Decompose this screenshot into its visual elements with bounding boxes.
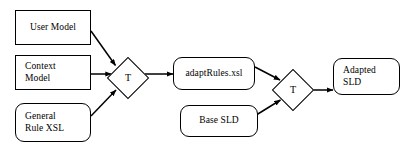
- node-general-rule-xsl-label: General Rule XSL: [25, 111, 64, 134]
- node-general-rule-xsl[interactable]: General Rule XSL: [15, 103, 91, 142]
- node-transform-2-label: T: [276, 85, 310, 95]
- node-adapted-sld-label: Adapted SLD: [343, 65, 376, 88]
- node-transform-1-label: T: [111, 73, 145, 83]
- node-base-sld-label: Base SLD: [199, 115, 239, 127]
- node-adapted-sld[interactable]: Adapted SLD: [333, 58, 400, 95]
- node-user-model-label: User Model: [30, 22, 76, 34]
- edge-general-rule-xsl-to-transform-1: [91, 90, 116, 116]
- node-context-model[interactable]: Context Model: [15, 55, 91, 90]
- node-adapt-rules-xsl-label: adaptRules.xsl: [185, 68, 242, 80]
- edge-adapt-rules-to-transform-2: [255, 67, 280, 80]
- node-user-model[interactable]: User Model: [15, 10, 91, 45]
- node-adapt-rules-xsl[interactable]: adaptRules.xsl: [173, 57, 255, 90]
- edge-user-model-to-transform-1: [91, 31, 116, 66]
- diagram-canvas: User Model Context Model General Rule XS…: [0, 0, 419, 151]
- node-base-sld[interactable]: Base SLD: [180, 105, 258, 137]
- node-context-model-label: Context Model: [25, 61, 56, 84]
